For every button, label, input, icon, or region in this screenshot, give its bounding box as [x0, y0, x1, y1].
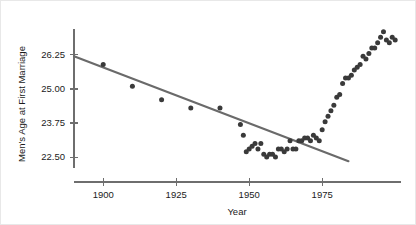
y-tick-label: 23.75: [41, 117, 65, 128]
data-point: [285, 146, 290, 151]
y-tick-label: 22.50: [41, 151, 65, 162]
data-point: [387, 40, 392, 45]
data-point: [317, 138, 322, 143]
regression-trend-line: [74, 56, 348, 161]
x-tick-label: 1975: [312, 189, 333, 200]
data-point: [337, 92, 342, 97]
x-axis-title: Year: [227, 206, 246, 217]
data-point: [258, 141, 263, 146]
data-point: [375, 40, 380, 45]
y-axis-title: Men's Age at First Marriage: [16, 46, 27, 162]
data-point: [130, 84, 135, 89]
data-point: [308, 138, 313, 143]
data-point: [255, 146, 260, 151]
data-point: [363, 56, 368, 61]
x-tick-label: 1950: [239, 189, 260, 200]
x-tick-label: 1925: [166, 189, 187, 200]
data-point: [273, 155, 278, 160]
data-point: [328, 108, 333, 113]
data-point: [188, 106, 193, 111]
data-point: [320, 127, 325, 132]
y-tick-label: 26.25: [41, 49, 65, 60]
data-point: [323, 119, 328, 124]
x-axis-ticks: 1900192519501975: [93, 178, 333, 200]
data-point: [340, 81, 345, 86]
x-tick-label: 1900: [93, 189, 114, 200]
data-point: [293, 146, 298, 151]
data-points-group: [101, 29, 398, 159]
y-axis-ticks: 22.5023.7525.0026.25: [41, 49, 78, 162]
data-point: [372, 46, 377, 51]
data-point: [331, 103, 336, 108]
data-point: [349, 73, 354, 78]
data-point: [159, 97, 164, 102]
data-point: [238, 122, 243, 127]
data-point: [378, 35, 383, 40]
data-point: [101, 62, 106, 67]
data-point: [241, 133, 246, 138]
data-point: [253, 141, 258, 146]
data-point: [217, 106, 222, 111]
data-point: [326, 114, 331, 119]
y-tick-label: 25.00: [41, 83, 65, 94]
chart-figure: 22.5023.7525.0026.25 1900192519501975 Ye…: [0, 0, 416, 225]
data-point: [288, 138, 293, 143]
data-point: [358, 62, 363, 67]
scatter-plot-svg: 22.5023.7525.0026.25 1900192519501975 Ye…: [1, 1, 416, 225]
data-point: [381, 29, 386, 34]
data-point: [366, 51, 371, 56]
data-point: [393, 37, 398, 42]
